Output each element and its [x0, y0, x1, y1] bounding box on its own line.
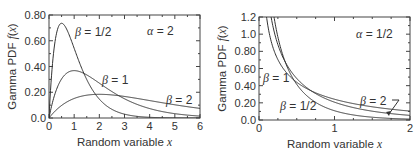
x-tick-label: 4 [147, 120, 153, 132]
y-tick-label: 0.40 [25, 61, 46, 73]
y-tick-label: 1.0 [241, 28, 256, 40]
y-tick-label: 0.60 [25, 35, 46, 47]
y-tick-label: 0.40 [235, 80, 256, 92]
x-tick-label: 1 [331, 122, 337, 134]
y-tick-label: 0.0 [241, 114, 256, 126]
y-axis-label: Gamma PDF f(x) [216, 25, 229, 111]
alpha-annotation: α = 1/2 [356, 27, 393, 41]
x-axis-label: Random variable x [287, 138, 383, 150]
x-tick-label: 0 [46, 120, 52, 132]
x-tick-label: 0 [256, 122, 262, 134]
y-tick-label: 0.0 [31, 112, 46, 124]
series-label: β = 2 [359, 94, 387, 108]
alpha-annotation: α = 2 [147, 24, 174, 38]
y-tick-label: 0.20 [25, 86, 46, 98]
y-tick-label: 0.80 [25, 9, 46, 21]
x-tick-label: 5 [172, 120, 178, 132]
series-label: β = 1 [262, 71, 290, 85]
y-tick-label: 1.2 [241, 11, 256, 23]
x-tick-label: 1 [71, 120, 77, 132]
x-tick-label: 2 [407, 122, 413, 134]
y-tick-label: 0.20 [235, 97, 256, 109]
series-label: β = 2 [165, 93, 193, 107]
right-chart: 0120.00.200.400.600.801.01.2Random varia… [216, 0, 413, 150]
x-tick-label: 2 [96, 120, 102, 132]
series-label: β = 1 [101, 73, 129, 87]
x-tick-label: 3 [121, 120, 127, 132]
series-label: β = 1/2 [74, 25, 112, 39]
y-tick-label: 0.80 [235, 45, 256, 57]
x-axis-label: Random variable x [77, 136, 173, 148]
series-label: β = 1/2 [279, 99, 317, 113]
y-axis-label: Gamma PDF f(x) [6, 23, 19, 109]
charts-canvas: 01234560.00.200.400.600.80Random variabl… [0, 0, 420, 157]
x-tick-label: 6 [197, 120, 203, 132]
y-tick-label: 0.60 [235, 63, 256, 75]
left-chart: 01234560.00.200.400.600.80Random variabl… [6, 9, 203, 148]
